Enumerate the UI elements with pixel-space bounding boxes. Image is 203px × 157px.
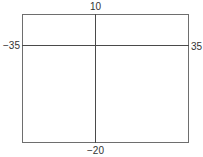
xmin-label: −35 bbox=[3, 41, 20, 51]
viewing-window-frame bbox=[22, 14, 189, 143]
x-axis bbox=[22, 45, 189, 46]
ymax-label: 10 bbox=[90, 2, 101, 12]
xmax-label: 35 bbox=[191, 42, 202, 52]
y-axis bbox=[95, 14, 96, 143]
ymin-label: −20 bbox=[87, 146, 104, 156]
